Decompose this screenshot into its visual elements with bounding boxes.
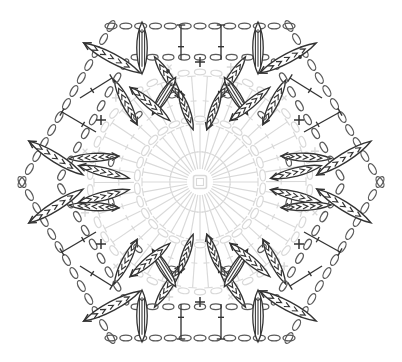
chain-stitch-icon — [194, 116, 205, 122]
chain-stitch-icon — [283, 19, 294, 32]
chain-stitch-icon — [319, 141, 329, 153]
chain-stitch-icon — [112, 72, 122, 85]
chain-stitch-icon — [134, 183, 141, 195]
chain-stitch-icon — [283, 335, 295, 341]
chain-stitch-icon — [120, 23, 132, 29]
chain-stitch-icon — [224, 23, 236, 29]
chain-stitch-icon — [291, 32, 302, 45]
chain-stitch-icon — [104, 86, 114, 99]
chain-stitch-icon — [294, 252, 304, 264]
bullion-cluster-icon — [69, 152, 119, 163]
chain-stitch-icon — [314, 279, 325, 292]
chain-stitch-icon — [259, 183, 266, 195]
crochet-hexagon-diagram — [0, 0, 402, 362]
treble-crochet-icon — [207, 130, 233, 171]
chain-stitch-icon — [268, 23, 280, 29]
treble-crochet-icon — [260, 210, 298, 231]
chain-stitch-icon — [209, 335, 221, 341]
bullion-cluster-icon — [281, 152, 331, 163]
chain-stitch-icon — [239, 23, 251, 29]
chain-stitch-icon — [291, 318, 302, 331]
chain-stitch-icon — [106, 331, 117, 344]
chain-stitch-icon — [224, 335, 236, 341]
chain-stitch-icon — [72, 210, 82, 223]
chain-stitch-icon — [194, 242, 205, 248]
outer-rounds — [17, 19, 386, 344]
puff-stitch-icon — [137, 290, 148, 342]
chain-stitch-icon — [105, 23, 117, 29]
chain-stitch-icon — [147, 54, 158, 60]
bullion-cluster-icon — [270, 162, 322, 183]
single-crochet-icon — [195, 57, 205, 67]
chain-stitch-icon — [280, 244, 291, 256]
treble-crochet-icon — [212, 158, 256, 177]
chain-stitch-icon — [194, 69, 205, 75]
chain-stitch-icon — [61, 97, 72, 110]
chain-stitch-icon — [278, 280, 288, 292]
chain-stitch-icon — [306, 58, 317, 71]
puff-stitch-icon — [253, 22, 264, 74]
chain-stitch-icon — [278, 72, 288, 84]
chain-stitch-icon — [68, 266, 79, 279]
chain-stitch-icon — [134, 170, 141, 182]
treble-crochet-icon — [144, 186, 188, 205]
magic-ring-center — [194, 176, 207, 189]
chain-stitch-icon — [226, 54, 237, 60]
chain-stitch-icon — [321, 266, 332, 279]
chain-stitch-icon — [319, 210, 329, 222]
chain-stitch-icon — [294, 99, 304, 111]
chain-stitch-icon — [76, 71, 87, 84]
single-crochet-icon — [195, 297, 205, 307]
chain-stitch-icon — [231, 125, 243, 136]
chain-stitch-icon — [242, 54, 253, 60]
chain-stitch-icon — [146, 78, 159, 88]
chain-stitch-icon — [147, 304, 158, 310]
treble-crochet-icon — [212, 186, 256, 205]
treble-crochet-icon — [207, 193, 233, 234]
slip-stitch-icon — [298, 55, 302, 59]
chain-stitch-icon — [157, 227, 169, 238]
chain-stitch-icon — [226, 304, 237, 310]
bullion-cluster-icon — [258, 287, 319, 325]
chain-stitch-icon — [335, 183, 345, 195]
treble-crochet-icon — [204, 126, 223, 170]
chain-stitch-icon — [164, 335, 176, 341]
outer-hex-chain-edge — [17, 19, 386, 344]
bullion-cluster-icon — [82, 287, 143, 325]
slip-stitch-icon — [166, 69, 170, 73]
chain-stitch-icon — [106, 19, 117, 32]
crochet-chart-root: Crochet Hexagon Motif Chart — [0, 0, 402, 362]
inner-light-rounds — [80, 62, 320, 302]
chain-stitch-icon — [157, 125, 169, 136]
chain-stitch-icon — [24, 162, 35, 175]
chain-stitch-icon — [306, 292, 317, 305]
treble-crochet-icon — [60, 108, 96, 132]
chain-stitch-icon — [80, 127, 90, 140]
chain-stitch-icon — [68, 84, 79, 97]
bullion-cluster-icon — [78, 162, 130, 183]
chain-stitch-icon — [104, 266, 114, 279]
stitch-marks — [96, 55, 304, 307]
chain-stitch-icon — [241, 78, 254, 88]
chain-stitch-icon — [314, 71, 325, 84]
chain-stitch-icon — [231, 227, 243, 238]
chain-stitch-icon — [46, 123, 57, 136]
treble-crochet-icon — [211, 189, 252, 215]
treble-crochet-icon — [148, 189, 189, 215]
chain-stitch-icon — [93, 136, 102, 148]
chain-stitch-icon — [335, 169, 345, 181]
treble-crochet-icon — [167, 193, 193, 234]
chain-stitch-icon — [93, 216, 102, 228]
chain-stitch-icon — [136, 195, 145, 207]
chain-stitch-icon — [194, 335, 206, 341]
chain-stitch-icon — [194, 289, 205, 295]
outer-bullion-round — [26, 39, 373, 325]
chain-stitch-icon — [210, 304, 221, 310]
chain-stitch-icon — [56, 183, 66, 196]
treble-crochet-icon — [102, 133, 140, 154]
chain-stitch-icon — [98, 32, 109, 45]
chain-stitch-icon — [241, 276, 254, 286]
treble-crochet-icon — [288, 266, 322, 290]
treble-crochet-icon — [304, 232, 342, 256]
treble-crochet-icon — [94, 178, 134, 186]
